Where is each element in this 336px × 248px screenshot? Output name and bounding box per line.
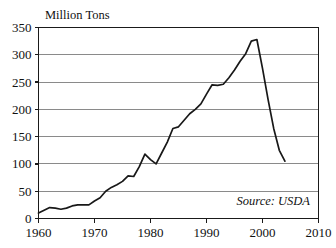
plot-frame (39, 28, 319, 219)
y-tick-label: 350 (12, 20, 32, 35)
y-axis-tick-labels: 050100150200250300350 (12, 20, 32, 226)
y-tick-label: 100 (12, 156, 32, 171)
x-tick-label: 1960 (26, 225, 52, 240)
y-tick-label: 150 (12, 129, 32, 144)
source-annotation: Source: USDA (237, 194, 311, 208)
gridlines-group (39, 55, 319, 191)
y-axis-title: Million Tons (45, 8, 110, 22)
y-tick-label: 200 (12, 102, 32, 117)
data-series-line (39, 40, 285, 214)
x-tick-label: 1990 (194, 225, 220, 240)
line-chart: 050100150200250300350 196019701980199020… (0, 0, 336, 248)
x-tick-label: 1970 (82, 225, 108, 240)
x-tick-label: 1980 (138, 225, 164, 240)
y-tick-label: 300 (12, 47, 32, 62)
chart-container: 050100150200250300350 196019701980199020… (0, 0, 336, 248)
y-tick-label: 50 (19, 184, 32, 199)
y-tick-label: 250 (12, 75, 32, 90)
x-tick-label: 2010 (306, 225, 332, 240)
x-tick-label: 2000 (250, 225, 276, 240)
x-axis-tick-labels: 196019701980199020002010 (26, 225, 332, 240)
